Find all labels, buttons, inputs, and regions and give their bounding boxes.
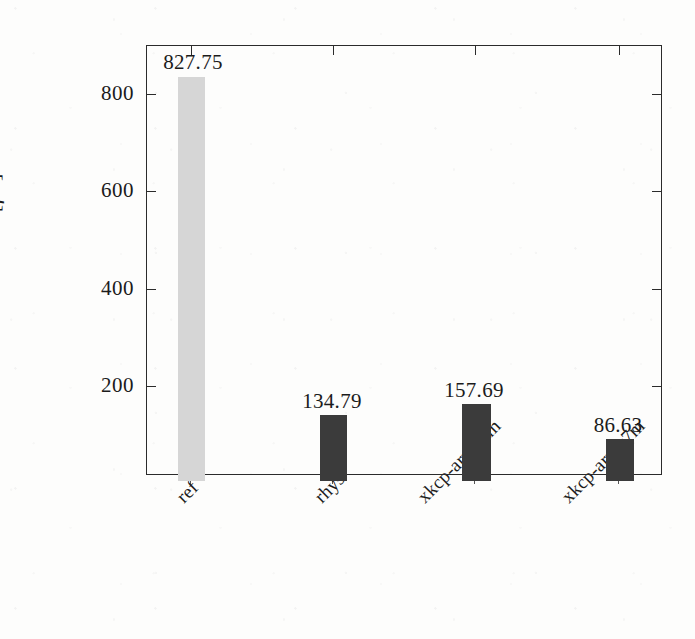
x-tick-mark-top-ref [191,46,192,55]
x-category-label-ref: ref [172,477,203,508]
y-axis-unit-mu: μ [0,190,4,205]
y-tick-mark-800 [147,94,156,95]
y-tick-mark-600 [147,191,156,192]
y-tick-mark-200 [147,386,156,387]
bar-chart-figure: time [μs] 800 600 400 200 827.75 134.79 … [0,0,695,639]
y-tick-mark-right-400 [652,289,661,290]
y-tick-mark-right-200 [652,386,661,387]
y-tick-label-800: 800 [24,81,134,106]
y-axis-unit-tail: s] [0,173,4,190]
y-axis-title: time [μs] [0,106,5,326]
plot-area [146,45,662,475]
y-tick-label-600: 600 [24,178,134,203]
bar-xkcp-armv6m [462,404,491,481]
y-tick-mark-400 [147,289,156,290]
bar-ref [178,77,205,481]
x-tick-mark-top-xkcp-armv6m [475,46,476,55]
y-tick-mark-right-600 [652,191,661,192]
bar-xkcp-armv7m [606,439,634,481]
y-tick-mark-right-800 [652,94,661,95]
x-tick-mark-top-rhys [333,46,334,55]
y-axis-title-text: time [ [0,205,4,259]
x-tick-mark-top-xkcp-armv7m [619,46,620,55]
bar-rhys [320,415,347,481]
y-tick-label-400: 400 [24,276,134,301]
y-tick-label-200: 200 [24,373,134,398]
